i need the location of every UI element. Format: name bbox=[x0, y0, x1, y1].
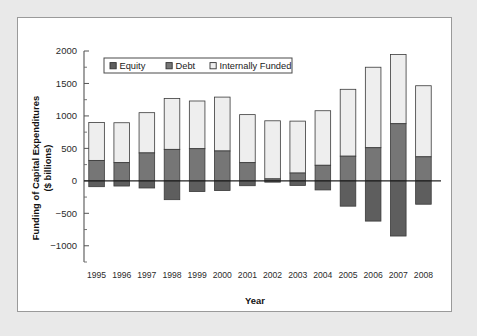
bar-segment-debt bbox=[365, 148, 381, 181]
legend-label-equity: Equity bbox=[120, 61, 146, 71]
bar-segment-debt bbox=[315, 165, 331, 181]
x-tick-label: 2000 bbox=[213, 270, 232, 280]
x-tick-label: 2006 bbox=[364, 270, 383, 280]
bar-segment-debt bbox=[240, 163, 256, 181]
bar-segment-equity bbox=[290, 181, 306, 186]
bar-segment-debt bbox=[189, 149, 205, 181]
x-tick-label: 1999 bbox=[188, 270, 207, 280]
y-axis-title-line2: ($ billions) bbox=[42, 145, 53, 192]
bar-segment-debt bbox=[214, 151, 230, 181]
x-tick-label: 1997 bbox=[137, 270, 156, 280]
legend-label-internally-funded: Internally Funded bbox=[220, 61, 292, 71]
y-tick-label: −500 bbox=[56, 208, 77, 219]
x-tick-label: 2008 bbox=[414, 270, 433, 280]
bar-segment-internally-funded bbox=[240, 115, 256, 163]
bar-segment-internally-funded bbox=[390, 55, 406, 124]
legend-swatch-equity bbox=[110, 63, 116, 69]
x-tick-label: 1996 bbox=[112, 270, 131, 280]
legend-label-debt: Debt bbox=[176, 61, 196, 71]
bar-segment-equity bbox=[416, 181, 432, 204]
y-tick-label: 0 bbox=[72, 175, 77, 186]
x-tick-label: 1995 bbox=[87, 270, 106, 280]
chart-legend[interactable]: EquityDebtInternally Funded bbox=[104, 58, 292, 73]
bar-segment-equity bbox=[214, 181, 230, 191]
x-tick-labels: 1995199619971998199920002001200220032004… bbox=[87, 270, 433, 280]
x-tick-label: 2002 bbox=[263, 270, 282, 280]
bar-segment-internally-funded bbox=[416, 86, 432, 157]
bar-segment-equity bbox=[89, 181, 105, 187]
bar-segment-debt bbox=[290, 173, 306, 181]
x-tick-label: 1998 bbox=[162, 270, 181, 280]
bar-segment-equity bbox=[139, 181, 155, 188]
x-tick-label: 2005 bbox=[338, 270, 357, 280]
bar-segment-debt bbox=[114, 163, 130, 181]
bar-segment-equity bbox=[315, 181, 331, 190]
bar-segment-debt bbox=[164, 149, 180, 180]
x-tick-label: 2007 bbox=[389, 270, 408, 280]
y-tick-label: 1500 bbox=[56, 78, 77, 89]
bar-segment-equity bbox=[164, 181, 180, 200]
x-axis-title: Year bbox=[245, 295, 265, 306]
bar-chart-svg: 2000150010005000−500−1000 19951996199719… bbox=[18, 18, 453, 313]
bars-group bbox=[89, 55, 431, 236]
bar-segment-internally-funded bbox=[139, 113, 155, 153]
bar-segment-internally-funded bbox=[114, 123, 130, 163]
bar-segment-equity bbox=[340, 181, 356, 206]
bar-segment-internally-funded bbox=[340, 89, 356, 156]
bar-segment-equity bbox=[365, 181, 381, 221]
bar-segment-equity bbox=[240, 181, 256, 186]
legend-swatch-internally-funded bbox=[210, 63, 216, 69]
x-tick-label: 2001 bbox=[238, 270, 257, 280]
bar-segment-debt bbox=[89, 160, 105, 180]
y-axis: 2000150010005000−500−1000 bbox=[50, 45, 89, 262]
y-tick-label: 1000 bbox=[56, 110, 77, 121]
bar-segment-debt bbox=[139, 153, 155, 181]
chart-figure: 2000150010005000−500−1000 19951996199719… bbox=[17, 17, 452, 312]
bar-segment-debt bbox=[340, 156, 356, 181]
plot-area: 2000150010005000−500−1000 19951996199719… bbox=[18, 18, 453, 313]
bar-segment-debt bbox=[390, 124, 406, 181]
x-tick-label: 2004 bbox=[313, 270, 332, 280]
bar-segment-internally-funded bbox=[214, 97, 230, 151]
bar-segment-debt bbox=[416, 157, 432, 181]
bar-segment-internally-funded bbox=[315, 111, 331, 166]
bar-segment-internally-funded bbox=[164, 98, 180, 149]
bar-segment-internally-funded bbox=[189, 101, 205, 149]
bar-segment-internally-funded bbox=[265, 121, 281, 179]
y-tick-label: 2000 bbox=[56, 45, 77, 56]
x-tick-label: 2003 bbox=[288, 270, 307, 280]
y-tick-label: −1000 bbox=[50, 240, 77, 251]
bar-segment-internally-funded bbox=[290, 121, 306, 173]
bar-segment-equity bbox=[189, 181, 205, 192]
y-axis-title-line1: Funding of Capital Expenditures bbox=[30, 96, 41, 240]
legend-swatch-debt bbox=[166, 63, 172, 69]
bar-segment-internally-funded bbox=[365, 67, 381, 148]
bar-segment-equity bbox=[114, 181, 130, 186]
bar-segment-equity bbox=[390, 181, 406, 236]
y-tick-label: 500 bbox=[61, 143, 77, 154]
bar-segment-internally-funded bbox=[89, 122, 105, 160]
